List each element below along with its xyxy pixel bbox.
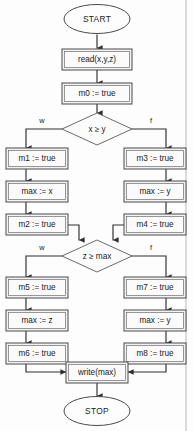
node-stop: STOP (64, 397, 130, 426)
read-label: read(x,y,z) (78, 55, 116, 64)
flowchart-svg: START read(x,y,z) m0 := true x ≥ y w f m… (0, 0, 194, 431)
node-max-assign-z: max := z (6, 310, 68, 331)
node-m0: m0 := true (62, 83, 132, 104)
node-m5: m5 := true (6, 277, 68, 298)
node-read: read(x,y,z) (62, 49, 132, 70)
node-m4: m4 := true (124, 214, 186, 235)
m2-label: m2 := true (18, 220, 56, 229)
node-m1: m1 := true (6, 148, 68, 169)
node-m3: m3 := true (124, 148, 186, 169)
m7-label: m7 := true (136, 283, 174, 292)
node-m8: m8 := true (124, 343, 186, 364)
connector-decision1-true-to-m1 (26, 129, 62, 148)
stop-label: STOP (85, 406, 109, 416)
decision2-true-label: w (38, 243, 45, 252)
flowchart-canvas: START read(x,y,z) m0 := true x ≥ y w f m… (0, 0, 194, 431)
m1-label: m1 := true (18, 154, 56, 163)
decision2-false-label: f (150, 243, 153, 252)
node-m6: m6 := true (6, 343, 68, 364)
maxx-label: max := x (21, 187, 52, 196)
decision2-label: z ≥ max (83, 252, 112, 261)
connector-decision2-true-to-m5 (26, 256, 62, 277)
node-m2: m2 := true (6, 214, 68, 235)
start-label: START (83, 14, 111, 24)
connector-decision1-false-to-m3 (132, 129, 166, 148)
node-write: write(max) (66, 362, 128, 383)
m0-label: m0 := true (78, 89, 116, 98)
decision1-false-label: f (150, 116, 153, 125)
node-start: START (64, 5, 130, 34)
maxy1-label: max := y (139, 187, 171, 196)
decision1-true-label: w (38, 116, 45, 125)
node-m7: m7 := true (124, 277, 186, 298)
m8-label: m8 := true (136, 349, 174, 358)
decision1-label: x ≥ y (88, 125, 106, 134)
maxz-label: max := z (21, 316, 52, 325)
connector-m8-to-write (128, 364, 166, 372)
m4-label: m4 := true (136, 220, 174, 229)
m6-label: m6 := true (18, 349, 56, 358)
maxy2-label: max := y (139, 316, 171, 325)
node-max-assign-y-1: max := y (124, 181, 186, 202)
m5-label: m5 := true (18, 283, 56, 292)
m3-label: m3 := true (136, 154, 174, 163)
node-max-assign-y-2: max := y (124, 310, 186, 331)
node-max-assign-x: max := x (6, 181, 68, 202)
write-label: write(max) (77, 368, 116, 377)
connector-decision2-false-to-m7 (132, 256, 166, 277)
connector-m6-to-write (26, 364, 66, 372)
